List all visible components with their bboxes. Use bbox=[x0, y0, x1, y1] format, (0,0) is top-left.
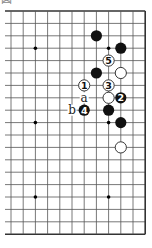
point-label-a: a bbox=[81, 91, 88, 105]
move-number-1: 1 bbox=[81, 80, 88, 91]
star-point bbox=[34, 46, 38, 50]
black-stone bbox=[91, 67, 102, 78]
move-number-4: 4 bbox=[81, 105, 88, 116]
point-label-b: b bbox=[68, 103, 76, 117]
white-stone bbox=[115, 142, 126, 153]
black-stone bbox=[115, 117, 126, 128]
black-stone bbox=[91, 30, 102, 41]
white-stone bbox=[115, 67, 126, 78]
star-point bbox=[34, 121, 38, 125]
star-point bbox=[107, 46, 111, 50]
black-stone bbox=[115, 43, 126, 54]
star-point bbox=[34, 195, 38, 199]
white-stone bbox=[103, 92, 114, 103]
star-point bbox=[107, 195, 111, 199]
star-point bbox=[107, 121, 111, 125]
move-number-3: 3 bbox=[105, 80, 112, 91]
black-stone bbox=[103, 105, 114, 116]
move-number-5: 5 bbox=[105, 55, 112, 66]
move-number-2: 2 bbox=[117, 92, 124, 103]
go-board: ab51324 bbox=[0, 0, 152, 248]
